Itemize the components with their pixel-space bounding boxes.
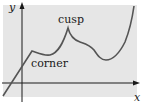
corner-label: corner <box>31 57 69 70</box>
x-axis-label: x <box>134 91 141 104</box>
cusp-label: cusp <box>58 13 84 26</box>
y-axis-label: y <box>8 1 16 14</box>
curve-diagram: y x cusp corner <box>0 0 143 110</box>
